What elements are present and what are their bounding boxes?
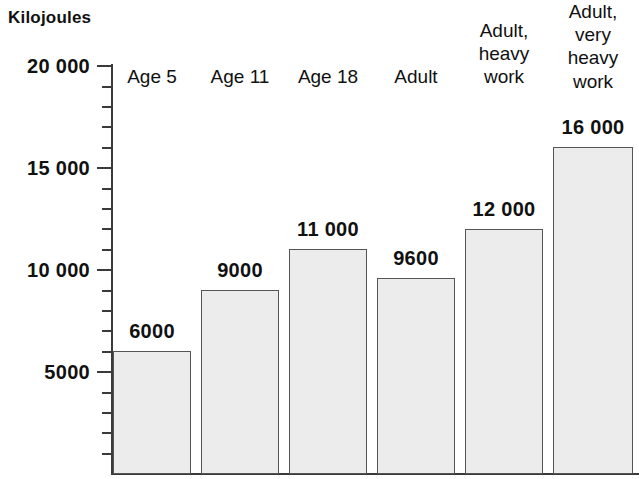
bar-adult [377, 278, 455, 474]
bar-age-5 [113, 351, 191, 474]
bar-value-age-18: 11 000 [297, 218, 359, 241]
y-tick-label-20000: 20 000 [27, 55, 90, 78]
category-label-age-11: Age 11 [211, 65, 270, 88]
bar-value-age-11: 9000 [217, 259, 263, 282]
bar-adult-heavy-work [465, 229, 543, 474]
category-label-age-5: Age 5 [127, 65, 177, 88]
y-minor-tick-4000 [102, 392, 112, 394]
y-tick-15000 [97, 167, 112, 169]
y-minor-tick-3000 [102, 412, 112, 414]
y-minor-tick-2000 [102, 432, 112, 434]
y-minor-tick-8000 [102, 310, 112, 312]
y-minor-tick-19000 [102, 86, 112, 88]
y-minor-tick-9000 [102, 290, 112, 292]
bar-value-adult-heavy-work: 12 000 [473, 198, 536, 221]
y-minor-tick-14000 [102, 188, 112, 190]
bar-chart-figure: Kilojoules 20 000 15 000 10 000 5000 [0, 0, 639, 479]
bar-value-adult-very-heavy-work: 16 000 [562, 116, 625, 139]
plot-area: 20 000 15 000 10 000 5000 6000 9000 11 0… [0, 0, 639, 479]
y-minor-tick-17000 [102, 126, 112, 128]
bar-value-adult: 9600 [393, 247, 439, 270]
category-label-adult-very-heavy-work: Adult, very heavy work [568, 0, 619, 93]
y-tick-label-5000: 5000 [44, 361, 90, 384]
y-minor-tick-11000 [102, 249, 112, 251]
y-minor-tick-6000 [102, 351, 112, 353]
bar-age-11 [201, 290, 279, 474]
y-tick-label-15000: 15 000 [27, 157, 90, 180]
y-minor-tick-13000 [102, 208, 112, 210]
y-minor-tick-16000 [102, 147, 112, 149]
y-minor-tick-12000 [102, 228, 112, 230]
category-label-adult-heavy-work: Adult, heavy work [479, 19, 530, 89]
y-tick-label-10000: 10 000 [27, 259, 90, 282]
y-tick-20000 [97, 65, 112, 67]
category-label-adult: Adult [394, 65, 437, 88]
bar-age-18 [289, 249, 367, 474]
y-tick-5000 [97, 371, 112, 373]
category-label-age-18: Age 18 [298, 65, 358, 88]
y-minor-tick-7000 [102, 330, 112, 332]
bar-adult-very-heavy-work [553, 147, 633, 474]
y-tick-10000 [97, 269, 112, 271]
y-minor-tick-18000 [102, 106, 112, 108]
bar-value-age-5: 6000 [129, 320, 175, 343]
y-minor-tick-1000 [102, 453, 112, 455]
